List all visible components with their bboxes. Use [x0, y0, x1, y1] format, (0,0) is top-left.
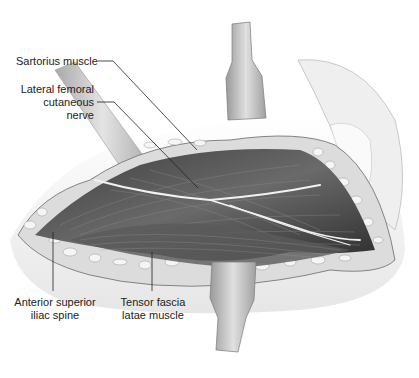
label-anterior-superior-iliac-spine: Anterior superior iliac spine	[10, 296, 100, 322]
label-tensor-fascia-latae-muscle: Tensor fascia latae muscle	[116, 296, 190, 322]
label-sartorius-muscle: Sartorius muscle	[16, 55, 98, 68]
top-retractor	[226, 22, 266, 120]
label-lateral-femoral-cutaneous-nerve: Lateral femoral cutaneous nerve	[16, 83, 94, 122]
bottom-retractor	[210, 262, 256, 352]
